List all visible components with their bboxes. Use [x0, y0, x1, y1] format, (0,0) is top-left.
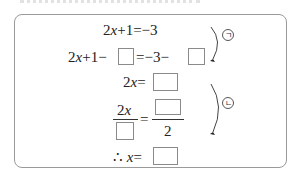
fraction-bar-right — [152, 119, 184, 120]
equation-step-3: 2x= — [123, 74, 146, 90]
equation-step-2-left: 2x+1− — [68, 49, 107, 65]
blank-box-step2-left[interactable] — [118, 48, 134, 65]
equation-step-1: 2x+1=−3 — [103, 22, 158, 38]
coef: 2 — [117, 102, 125, 118]
rhs: −3− — [144, 49, 168, 65]
blank-box-step4-denominator[interactable] — [116, 122, 134, 140]
cropped-heading-remnant — [20, 0, 200, 7]
coef: 2 — [68, 49, 76, 65]
arrow-arc-icon-2 — [205, 82, 225, 140]
term: +1− — [82, 49, 106, 65]
equals-sign: = — [133, 22, 141, 38]
blank-box-step4-numerator[interactable] — [155, 99, 181, 115]
rhs: −3 — [142, 22, 158, 38]
equation-step-5: ∴ x= — [113, 149, 142, 165]
fraction-right-denominator: 2 — [164, 123, 172, 139]
equals-sign-step4: = — [140, 111, 148, 127]
term: +1 — [117, 22, 133, 38]
circled-label-giyeok: ㄱ — [222, 29, 234, 41]
coef: 2 — [103, 22, 111, 38]
variable-x: x — [125, 102, 132, 118]
blank-box-step3[interactable] — [153, 73, 178, 91]
fraction-bar-left — [113, 119, 138, 120]
coef: 2 — [123, 74, 131, 90]
therefore-symbol: ∴ — [113, 149, 123, 165]
fraction-left-numerator: 2x — [117, 102, 131, 118]
circled-label-nieun: ㄴ — [222, 97, 234, 109]
equals-sign: = — [137, 74, 145, 90]
blank-box-step5[interactable] — [153, 147, 178, 165]
blank-box-step2-right[interactable] — [188, 48, 205, 65]
equals-sign: = — [133, 149, 141, 165]
equation-step-2-right: =−3− — [136, 49, 169, 65]
